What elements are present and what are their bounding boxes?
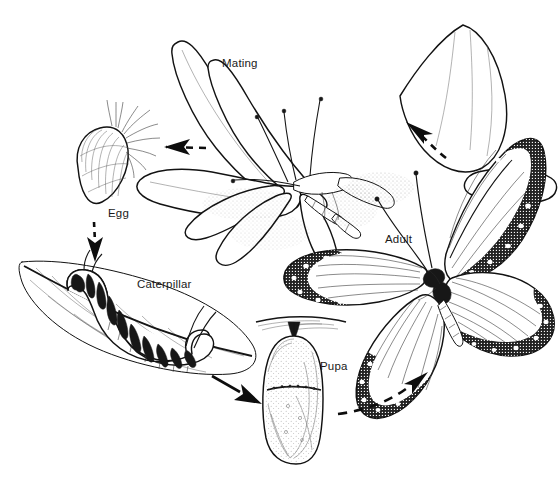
label-pupa: Pupa bbox=[320, 360, 348, 372]
arrow-caterpillar-to-pupa bbox=[212, 376, 262, 404]
caterpillar-head bbox=[71, 274, 81, 290]
label-mating: Mating bbox=[222, 57, 258, 69]
life-cycle-diagram: Mating bbox=[0, 0, 559, 487]
pupa-silk-branch bbox=[256, 317, 346, 322]
arrow-mating-to-egg bbox=[164, 139, 206, 155]
caterpillar-illustration: Caterpillar bbox=[19, 250, 256, 374]
label-adult: Adult bbox=[385, 233, 413, 245]
adult-antenna-right bbox=[416, 174, 432, 268]
egg-illustration: Egg bbox=[77, 100, 160, 219]
diagram-canvas: Mating bbox=[0, 0, 559, 487]
pupa-illustration: Pupa bbox=[256, 317, 348, 464]
label-egg: Egg bbox=[108, 207, 129, 219]
egg-body bbox=[77, 127, 128, 203]
label-caterpillar: Caterpillar bbox=[137, 278, 192, 290]
